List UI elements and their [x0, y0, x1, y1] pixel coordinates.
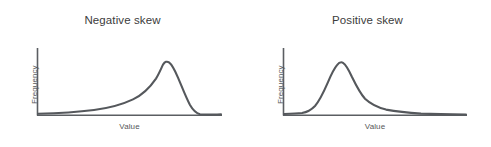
distribution-curve-positive-skew [284, 62, 466, 114]
skewness-figure: Negative skew Frequency Value Positive s… [0, 0, 491, 147]
panel-negative-skew: Negative skew Frequency Value [0, 0, 245, 147]
y-axis-label-positive-skew: Frequency [276, 65, 286, 104]
x-axis-label-negative-skew: Value [37, 122, 222, 132]
panel-positive-skew: Positive skew Frequency Value [245, 0, 490, 147]
y-axis-label-negative-skew: Frequency [30, 65, 40, 104]
x-axis-label-positive-skew: Value [283, 122, 467, 132]
distribution-curve-negative-skew [38, 62, 221, 115]
